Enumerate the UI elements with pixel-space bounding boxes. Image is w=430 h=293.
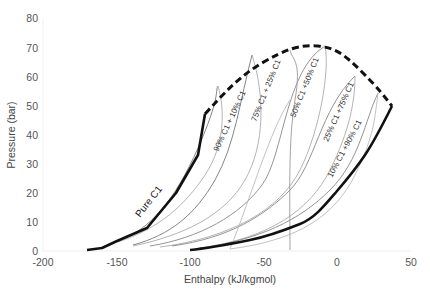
- x-tick: -200: [32, 256, 53, 268]
- x-axis-ticks: -200 -150 -100 -50 0 50: [32, 256, 417, 268]
- y-tick: 80: [26, 12, 38, 24]
- y-tick: 70: [26, 42, 38, 54]
- curve-50-50-bubble: [150, 46, 325, 246]
- curve-cross-2: [230, 100, 290, 249]
- y-tick: 30: [26, 158, 38, 170]
- y-axis-ticks: 0 10 20 30 40 50 60 70 80: [26, 12, 38, 257]
- pressure-enthalpy-chart: 0 10 20 30 40 50 60 70 80 -200 -150 -100…: [0, 0, 430, 293]
- y-tick: 40: [26, 129, 38, 141]
- curve-90-10-bubble: [118, 86, 218, 241]
- curve-50-50-dew: [160, 46, 326, 247]
- x-axis-label: Enthalpy (kJ/kgmol): [184, 273, 276, 285]
- x-tick: -50: [256, 256, 271, 268]
- y-tick: 10: [26, 216, 38, 228]
- y-tick: 60: [26, 71, 38, 83]
- label-90-10: 90% C1 + 10% C1: [212, 89, 248, 153]
- y-tick: 50: [26, 100, 38, 112]
- label-50-50: 50% C1 +50% C1: [289, 56, 321, 119]
- curve-75-25-bubble: [133, 55, 252, 245]
- c2-rich-boundary-curve: [190, 106, 392, 250]
- x-tick: 50: [405, 256, 417, 268]
- y-axis-label: Pressure (bar): [5, 101, 17, 168]
- x-tick: -100: [179, 256, 200, 268]
- x-tick: -150: [106, 256, 127, 268]
- pure-c1-curve: [87, 114, 205, 250]
- y-tick: 20: [26, 187, 38, 199]
- x-tick: 0: [334, 256, 340, 268]
